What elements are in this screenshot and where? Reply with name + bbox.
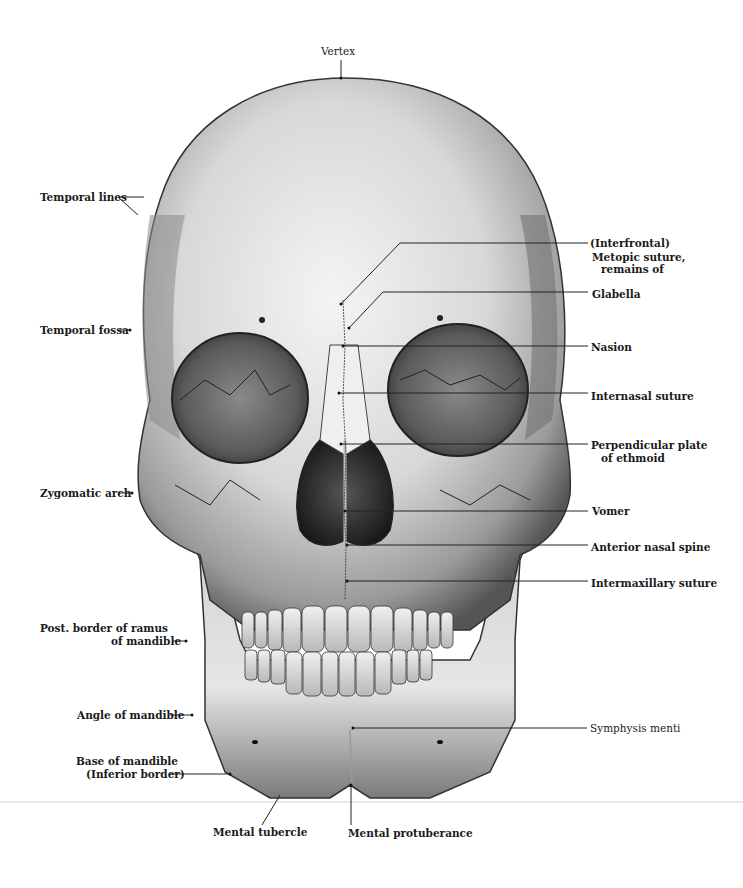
orbit-left	[172, 333, 308, 463]
label-base-of-mandible-1: Base of mandible	[76, 755, 178, 767]
label-metopic-2: Metopic suture,	[592, 251, 685, 263]
label-temporal-lines: Temporal lines	[40, 191, 127, 203]
label-vertex: Vertex	[320, 45, 355, 57]
label-zygomatic-arch: Zygomatic arch	[40, 487, 132, 499]
label-mental-protuberance: Mental protuberance	[348, 827, 473, 839]
skull-anterior-diagram: Vertex Temporal lines Temporal fossa Zyg…	[0, 0, 743, 888]
label-mental-tubercle: Mental tubercle	[213, 826, 308, 838]
label-temporal-fossa: Temporal fossa	[40, 324, 129, 336]
label-glabella: Glabella	[592, 288, 641, 300]
label-perpendicular-plate-1: Perpendicular plate	[591, 439, 708, 451]
label-base-of-mandible-2: (Inferior border)	[86, 768, 185, 780]
skull-illustration	[138, 78, 570, 798]
label-metopic-1: (Interfrontal)	[590, 237, 670, 249]
label-nasion: Nasion	[591, 341, 632, 353]
label-intermaxillary-suture: Intermaxillary suture	[591, 577, 717, 589]
label-vomer: Vomer	[591, 505, 630, 517]
label-internasal-suture: Internasal suture	[591, 390, 694, 402]
label-angle-of-mandible: Angle of mandible	[76, 709, 185, 721]
orbit-right	[388, 324, 528, 456]
label-metopic-3: remains of	[601, 263, 665, 275]
label-perpendicular-plate-2: of ethmoid	[601, 452, 665, 464]
label-symphysis-menti: Symphysis menti	[590, 722, 681, 734]
label-post-border-ramus-1: Post. border of ramus	[40, 622, 168, 634]
label-anterior-nasal-spine: Anterior nasal spine	[590, 541, 711, 553]
label-post-border-ramus-2: of mandible	[111, 635, 181, 647]
